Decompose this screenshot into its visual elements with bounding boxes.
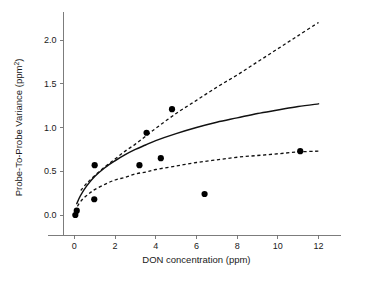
y-axis-title: Probe-To-Probe Variance (ppm2) xyxy=(13,59,24,197)
x-tick-label: 6 xyxy=(194,241,199,251)
data-point xyxy=(136,162,142,168)
curve-upper-confidence-band xyxy=(81,23,319,191)
y-tick-label: 0.0 xyxy=(44,210,57,220)
x-tick-label: 4 xyxy=(153,241,158,251)
x-tick-label: 12 xyxy=(314,241,324,251)
data-point xyxy=(169,106,175,112)
curve-lower-confidence-band xyxy=(77,151,318,206)
axes-group xyxy=(48,12,340,239)
regression-curves-group xyxy=(77,23,319,207)
x-tick-label: 0 xyxy=(72,241,77,251)
y-tick-label: 0.5 xyxy=(44,166,57,176)
y-tick-label: 1.0 xyxy=(44,123,57,133)
x-tick-label: 8 xyxy=(235,241,240,251)
scatter-plot: 0.00.51.01.52.0024681012DON concentratio… xyxy=(0,0,377,291)
y-tick-label: 2.0 xyxy=(44,35,57,45)
data-point xyxy=(91,196,97,202)
x-axis-title: DON concentration (ppm) xyxy=(142,254,250,265)
x-tick-label: 2 xyxy=(113,241,118,251)
data-point xyxy=(143,130,149,136)
data-point xyxy=(297,148,303,154)
x-tick-label: 10 xyxy=(273,241,283,251)
axis-labels-group: 0.00.51.01.52.0024681012DON concentratio… xyxy=(13,35,324,265)
data-point xyxy=(201,191,207,197)
data-point xyxy=(158,155,164,161)
data-point xyxy=(74,208,80,214)
data-points-group xyxy=(72,106,303,218)
data-point xyxy=(92,162,98,168)
y-tick-label: 1.5 xyxy=(44,79,57,89)
chart-figure: 0.00.51.01.52.0024681012DON concentratio… xyxy=(0,0,377,291)
